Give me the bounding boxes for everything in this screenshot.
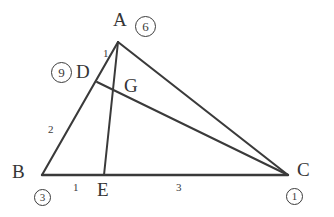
segment-length-bd: 2 — [48, 124, 54, 135]
triangle-diagram — [0, 0, 334, 217]
vertex-label-d: D — [76, 62, 90, 81]
vertex-label-c: C — [297, 160, 310, 179]
segment-length-ec: 3 — [176, 182, 182, 193]
vertex-label-a: A — [113, 10, 127, 29]
circled-number-three: 3 — [34, 189, 51, 206]
vertex-label-b: B — [12, 162, 25, 181]
circled-number-one: 1 — [286, 188, 303, 205]
segment-length-be: 1 — [73, 182, 79, 193]
circled-number-six: 6 — [135, 16, 156, 37]
segment-length-ad: 1 — [103, 48, 109, 59]
geometry-figure-canvas: A B C D E G 1 2 1 3 6 9 3 1 — [0, 0, 334, 217]
circled-number-nine: 9 — [51, 62, 72, 83]
vertex-label-g: G — [124, 76, 138, 95]
vertex-label-e: E — [97, 180, 109, 199]
edge-ac — [118, 42, 288, 175]
